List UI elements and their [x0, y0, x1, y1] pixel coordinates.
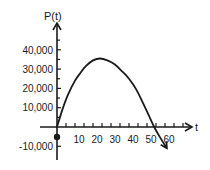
y-tick-label: 40,000	[22, 45, 53, 56]
x-axis	[40, 123, 192, 131]
y-axis-title: P(t)	[44, 10, 62, 22]
x-tick-label: 30	[109, 134, 121, 145]
x-tick-label: 40	[127, 134, 139, 145]
y-tick-labels: 40,000 30,000 20,000 10,000 -10,000	[19, 45, 53, 152]
y-tick-label: 20,000	[22, 83, 53, 94]
x-tick-label: 60	[163, 134, 175, 145]
x-axis-title: t	[195, 121, 198, 133]
x-tick-label: 10	[73, 134, 85, 145]
initial-point-marker	[54, 134, 60, 140]
y-tick-label: -10,000	[19, 141, 53, 152]
x-tick-label: 50	[145, 134, 157, 145]
y-tick-label: 30,000	[22, 64, 53, 75]
y-tick-label: 10,000	[22, 102, 53, 113]
population-chart: P(t) t 40,000 30,000 20,000 10,000 -10,0…	[0, 0, 210, 170]
x-tick-label: 20	[91, 134, 103, 145]
